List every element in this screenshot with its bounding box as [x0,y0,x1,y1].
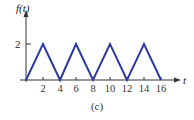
x-tick-label: 2 [40,84,45,95]
x-tick-label: 4 [57,84,62,95]
x-tick-label: 8 [90,84,95,95]
x-axis-label: t [183,75,186,86]
x-tick-label: 10 [105,84,116,95]
x-tick-label: 12 [122,84,133,95]
figure-caption: (c) [91,101,103,112]
triangle-wave-line [26,44,161,80]
y-axis-label: f(t) [16,3,29,14]
x-tick-label: 16 [156,84,167,95]
x-tick-label: 6 [73,84,78,95]
x-tick-label: 14 [139,84,150,95]
y-tick-label: 2 [15,39,21,50]
x-axis-arrow-icon [174,78,181,83]
